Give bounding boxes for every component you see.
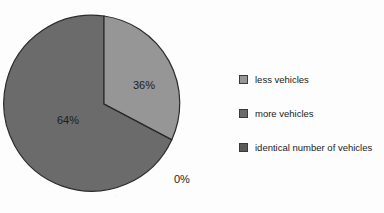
chart-legend: less vehicles more vehicles identical nu… [239, 62, 384, 164]
legend-label-more-vehicles: more vehicles [255, 108, 314, 119]
legend-label-less-vehicles: less vehicles [255, 74, 309, 85]
legend-swatch-icon-less-vehicles [239, 75, 248, 84]
legend-swatch-icon-more-vehicles [239, 109, 248, 118]
legend-item-identical-number-of-vehicles[interactable]: identical number of vehicles [239, 130, 384, 164]
pie-value-label-less-vehicles: 36% [133, 79, 155, 91]
legend-item-less-vehicles[interactable]: less vehicles [239, 62, 384, 96]
pie-value-label-more-vehicles: 64% [57, 114, 79, 126]
legend-label-identical-number-of-vehicles: identical number of vehicles [255, 142, 372, 153]
pie-value-label-identical-number-of-vehicles: 0% [174, 173, 190, 185]
legend-item-more-vehicles[interactable]: more vehicles [239, 96, 384, 130]
legend-swatch-icon-identical-number-of-vehicles [239, 143, 248, 152]
pie-chart-figure: 36% 64% 0% less vehicles more vehicles i… [0, 0, 384, 213]
